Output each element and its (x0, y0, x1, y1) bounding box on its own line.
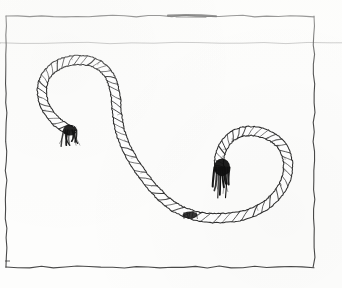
rope-twist-strand (152, 193, 165, 194)
border-top-dark-segment (168, 15, 216, 16)
rope-sketch-canvas (0, 0, 342, 288)
tassel-strand (229, 167, 230, 184)
sketch-page: Twisted rope sketch coiled twisted rope … (0, 0, 342, 288)
tassel-strand (218, 167, 219, 198)
